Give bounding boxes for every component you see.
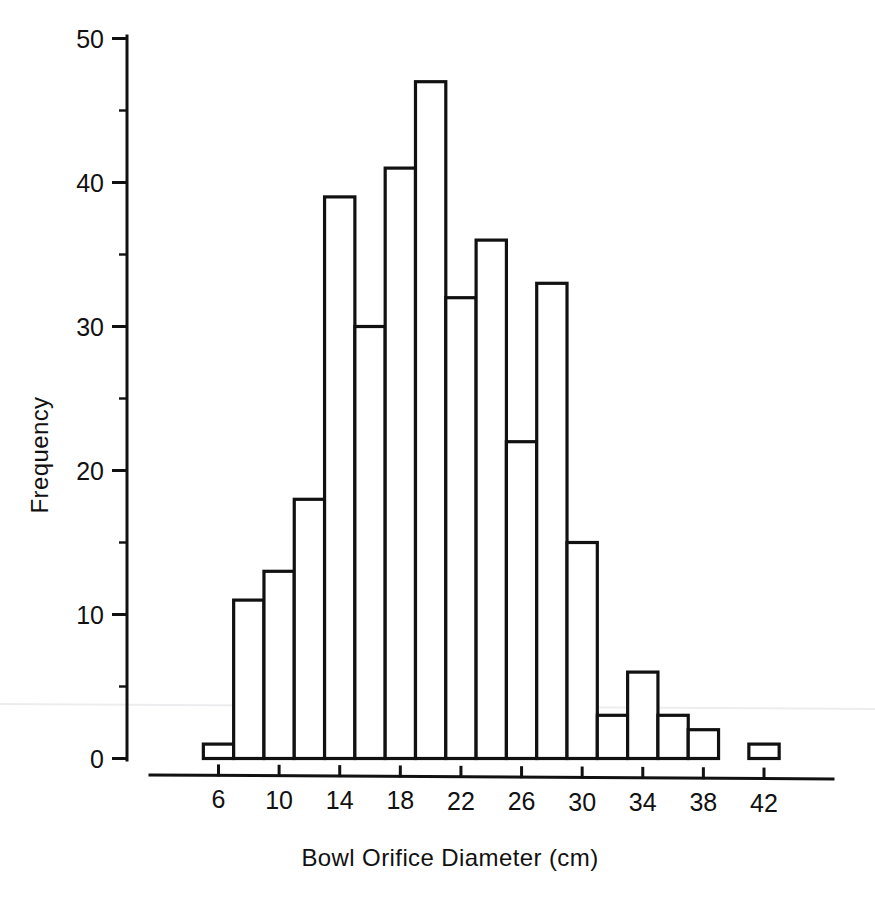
bars-group [203,82,779,759]
y-tick-labels: 01020304050 [76,25,104,773]
histogram-bar [688,730,718,759]
x-tick-label: 34 [629,788,657,816]
histogram-bar [628,672,658,758]
y-tick-label: 20 [76,457,104,485]
y-tick-label: 10 [76,601,104,629]
y-tick-label: 50 [76,25,104,53]
histogram-bar [385,168,415,758]
x-tick-label: 30 [568,788,596,816]
histogram-bar [749,744,779,758]
histogram-bar [567,543,597,759]
x-axis-title: Bowl Orifice Diameter (cm) [301,844,598,871]
y-tick-label: 0 [90,745,104,773]
x-tick-label: 26 [508,787,536,815]
y-axis-title: Frequency [26,397,53,514]
histogram-bar [294,499,324,758]
y-tick-label: 30 [76,313,104,341]
histogram-bar [658,715,688,758]
x-tick-labels: 6101418222630343842 [212,785,778,816]
x-tick-label: 22 [447,787,475,815]
histogram-bar [597,715,627,758]
histogram-bar [537,283,567,758]
histogram-bar [476,240,506,758]
histogram-bar [325,197,355,759]
histogram-bar [355,327,385,759]
x-tick-label: 14 [326,786,354,814]
x-tick-label: 38 [689,788,717,816]
histogram-bar [415,82,445,759]
histogram-bar [506,442,536,759]
histogram-bar [446,298,476,759]
x-tick-label: 42 [750,789,778,817]
x-axis-line [150,775,833,779]
x-tick-label: 6 [212,785,226,813]
histogram-bar [203,744,233,758]
x-tick-label: 10 [265,786,293,814]
y-tick-label: 40 [76,169,104,197]
histogram-bar [234,600,264,758]
x-tick-label: 18 [386,786,414,814]
bowl-orifice-diameter-histogram: 01020304050 6101418222630343842 Bowl Ori… [0,0,875,898]
histogram-figure: 01020304050 6101418222630343842 Bowl Ori… [0,0,875,898]
histogram-bar [264,571,294,758]
